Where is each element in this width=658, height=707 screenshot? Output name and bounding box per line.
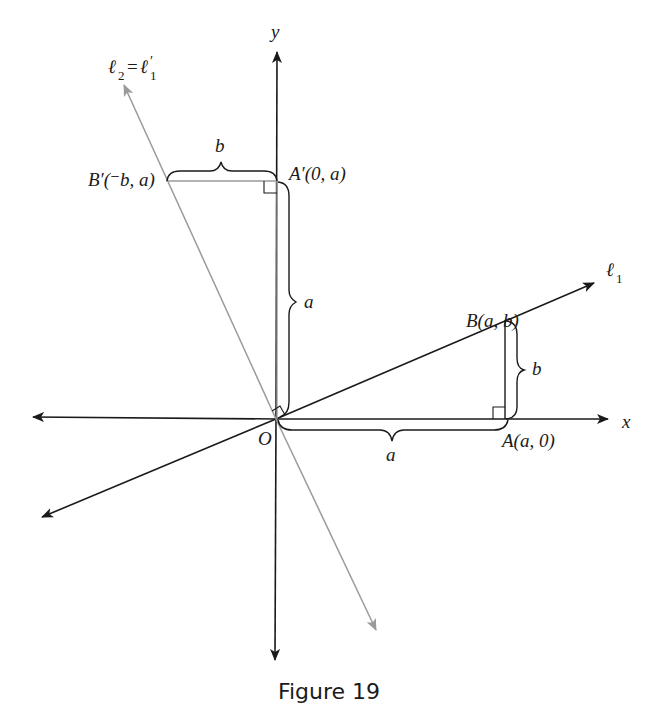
construction-lines	[166, 181, 505, 419]
point-Aprime-label: A′(0, a)	[287, 163, 346, 185]
svg-text:ℓ: ℓ	[140, 56, 148, 77]
l2-equals-l1prime-label: ℓ 2 = ℓ ′ 1	[108, 54, 157, 83]
figure-caption: Figure 19	[278, 679, 380, 704]
svg-text:ℓ: ℓ	[108, 56, 116, 77]
brace-vertical-right	[506, 321, 524, 419]
svg-text:2: 2	[118, 68, 125, 83]
right-angle-markers	[264, 181, 505, 419]
x-axis-label: x	[621, 411, 631, 432]
brace-horizontal-top	[167, 162, 277, 181]
figure-diagram: y x O ℓ 1 ℓ 2 = ℓ ′ 1 B(a, b) A(a, 0) A′…	[0, 0, 658, 707]
svg-text:=: =	[127, 56, 138, 77]
svg-text:ℓ: ℓ	[606, 259, 614, 280]
svg-text:′: ′	[150, 54, 153, 69]
brace-vertical-left	[278, 182, 296, 417]
brace-label-left-a: a	[304, 291, 314, 312]
y-axis-label: y	[269, 21, 280, 42]
brace-label-bottom-a: a	[386, 444, 396, 465]
svg-text:1: 1	[616, 271, 623, 286]
x-axis	[33, 417, 608, 419]
svg-text:1: 1	[150, 68, 157, 83]
origin-label: O	[258, 428, 272, 449]
point-A-label: A(a, 0)	[500, 430, 555, 452]
point-Bprime-label: B′(⁻b, a)	[88, 169, 155, 191]
brace-label-right-b: b	[532, 358, 542, 379]
brace-label-top-b: b	[215, 135, 225, 156]
point-B-label: B(a, b)	[466, 310, 519, 332]
l1-label: ℓ 1	[606, 259, 623, 286]
brace-horizontal-bottom	[278, 420, 508, 441]
